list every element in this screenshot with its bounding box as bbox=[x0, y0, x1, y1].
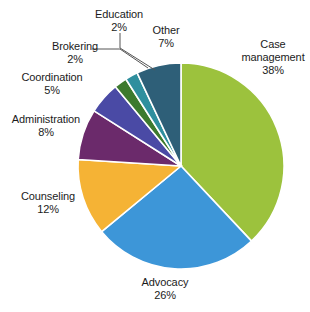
slice-label-value: 12% bbox=[8, 203, 88, 216]
slice-label-brokering: Brokering 2% bbox=[40, 40, 110, 66]
slice-label-advocacy: Advocacy 26% bbox=[128, 276, 202, 302]
slice-label-name: Education bbox=[84, 8, 154, 21]
slice-label-value: 2% bbox=[40, 53, 110, 66]
slice-label-value: 38% bbox=[236, 64, 310, 77]
slice-label-case-management: Case management 38% bbox=[236, 38, 310, 77]
slice-label-value: 7% bbox=[142, 37, 190, 50]
slice-label-other: Other 7% bbox=[142, 24, 190, 50]
slice-label-administration: Administration 8% bbox=[2, 113, 90, 139]
slice-label-name: Case management bbox=[236, 38, 310, 64]
slice-label-name: Administration bbox=[2, 113, 90, 126]
slice-label-value: 26% bbox=[128, 289, 202, 302]
pie-chart-figure: Case management 38% Advocacy 26% Counsel… bbox=[0, 0, 310, 312]
slice-label-coordination: Coordination 5% bbox=[10, 71, 94, 97]
slice-label-name: Counseling bbox=[8, 190, 88, 203]
pie-slice-group bbox=[78, 63, 284, 269]
slice-label-value: 5% bbox=[10, 84, 94, 97]
slice-label-counseling: Counseling 12% bbox=[8, 190, 88, 216]
slice-label-name: Coordination bbox=[10, 71, 94, 84]
slice-label-name: Advocacy bbox=[128, 276, 202, 289]
slice-label-name: Other bbox=[142, 24, 190, 37]
slice-label-value: 8% bbox=[2, 126, 90, 139]
slice-label-name: Brokering bbox=[40, 40, 110, 53]
